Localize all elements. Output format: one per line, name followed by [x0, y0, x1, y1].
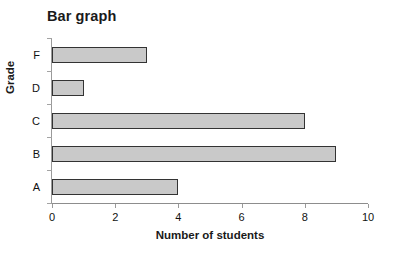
x-tick-label-6: 6 — [239, 211, 245, 223]
bar-a — [52, 179, 178, 195]
x-tick-label-4: 4 — [175, 211, 181, 223]
x-tick-label-8: 8 — [302, 211, 308, 223]
x-tick-mark — [115, 204, 116, 208]
y-tick-label-c: C — [32, 115, 40, 127]
y-tick-label-f: F — [33, 49, 40, 61]
bar-c — [52, 113, 305, 129]
x-axis-title: Number of students — [52, 229, 368, 241]
x-tick-mark — [305, 204, 306, 208]
x-tick-mark — [368, 204, 369, 208]
y-tick-label-d: D — [32, 82, 40, 94]
bar-chart-figure: Bar graph 0246810 FDCBA Number of studen… — [0, 0, 394, 257]
y-tick-label-b: B — [33, 148, 40, 160]
bar-b — [52, 146, 336, 162]
x-tick-mark — [178, 204, 179, 208]
x-tick-mark — [242, 204, 243, 208]
x-axis-line — [51, 203, 368, 204]
y-tick-mark — [47, 38, 52, 39]
y-tick-mark — [47, 203, 52, 204]
plot-area: 0246810 FDCBA — [52, 38, 368, 203]
bar-d — [52, 80, 84, 96]
x-tick-mark — [52, 204, 53, 208]
x-tick-label-2: 2 — [112, 211, 118, 223]
bar-f — [52, 47, 147, 63]
y-tick-mark — [47, 104, 52, 105]
y-tick-label-a: A — [33, 181, 40, 193]
y-axis-title: Grade — [4, 61, 16, 94]
chart-title: Bar graph — [47, 8, 116, 24]
y-tick-mark — [47, 170, 52, 171]
x-tick-label-10: 10 — [362, 211, 374, 223]
y-tick-mark — [47, 137, 52, 138]
x-tick-label-0: 0 — [49, 211, 55, 223]
y-tick-mark — [47, 71, 52, 72]
